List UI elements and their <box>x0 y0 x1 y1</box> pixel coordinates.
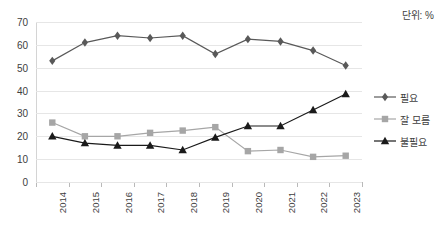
top-cut-off-strip: ─────── ── ── ── ── ── ── ── <box>0 0 444 5</box>
x-tick <box>36 183 37 187</box>
data-point-불필요-2022 <box>309 106 317 113</box>
data-point-잘 모름-2018 <box>180 127 186 133</box>
x-tick-label-2015: 2015 <box>90 192 101 213</box>
chart-legend: 필요잘 모름불필요 <box>374 86 444 152</box>
x-tick <box>69 183 70 187</box>
data-point-잘 모름-2017 <box>147 130 153 136</box>
diamond-marker-icon <box>374 91 396 103</box>
series-line-필요 <box>52 36 345 66</box>
data-point-잘 모름-2015 <box>82 133 88 139</box>
x-tick <box>297 183 298 187</box>
unit-note: 단위: % <box>402 7 434 22</box>
data-point-필요-2016 <box>114 32 120 40</box>
legend-label: 잘 모름 <box>400 112 430 127</box>
y-tick-label-10: 10 <box>2 154 28 165</box>
legend-label: 불필요 <box>400 134 427 149</box>
x-tick-label-2023: 2023 <box>351 192 362 213</box>
data-point-필요-2021 <box>277 37 283 45</box>
data-point-잘 모름-2023 <box>343 153 349 159</box>
data-point-필요-2014 <box>49 57 55 65</box>
data-point-잘 모름-2014 <box>49 119 55 125</box>
legend-item-필요[interactable]: 필요 <box>374 86 444 108</box>
y-tick-label-50: 50 <box>2 62 28 73</box>
legend-label: 필요 <box>400 90 418 105</box>
x-tick-label-2018: 2018 <box>188 192 199 213</box>
x-tick-label-2020: 2020 <box>253 192 264 213</box>
square-marker-icon <box>374 113 396 125</box>
y-tick-label-20: 20 <box>2 131 28 142</box>
data-point-필요-2015 <box>82 38 88 46</box>
y-tick-label-60: 60 <box>2 39 28 50</box>
y-tick-label-30: 30 <box>2 108 28 119</box>
series-필요 <box>49 32 349 70</box>
x-tick <box>134 183 135 187</box>
series-layer <box>36 22 362 182</box>
data-point-필요-2023 <box>343 61 349 69</box>
plot-area <box>36 22 362 182</box>
data-point-잘 모름-2020 <box>245 148 251 154</box>
data-point-잘 모름-2022 <box>310 154 316 160</box>
data-point-잘 모름-2016 <box>114 133 120 139</box>
legend-item-불필요[interactable]: 불필요 <box>374 130 444 152</box>
data-point-불필요-2023 <box>342 90 350 97</box>
x-tick-label-2014: 2014 <box>57 192 68 213</box>
gridline-0 <box>36 182 362 183</box>
x-tick <box>232 183 233 187</box>
x-tick <box>264 183 265 187</box>
x-tick-label-2021: 2021 <box>286 192 297 213</box>
x-tick-label-2016: 2016 <box>123 192 134 213</box>
data-point-필요-2018 <box>180 32 186 40</box>
x-tick <box>199 183 200 187</box>
x-tick-label-2017: 2017 <box>155 192 166 213</box>
data-point-필요-2017 <box>147 34 153 42</box>
x-tick <box>166 183 167 187</box>
top-cut-off-text: ─────── ── ── ── ── ── ── ── <box>4 0 169 4</box>
x-tick <box>362 183 363 187</box>
x-tick-label-2022: 2022 <box>318 192 329 213</box>
y-tick-label-40: 40 <box>2 85 28 96</box>
series-불필요 <box>48 90 350 153</box>
series-line-불필요 <box>52 94 345 150</box>
data-point-잘 모름-2021 <box>277 147 283 153</box>
triangle-marker-icon <box>374 135 396 147</box>
legend-item-잘 모름[interactable]: 잘 모름 <box>374 108 444 130</box>
data-point-잘 모름-2019 <box>212 124 218 130</box>
series-line-잘 모름 <box>52 123 345 157</box>
data-point-필요-2022 <box>310 46 316 54</box>
y-tick-label-70: 70 <box>2 17 28 28</box>
x-tick <box>101 183 102 187</box>
x-tick-label-2019: 2019 <box>220 192 231 213</box>
chart-figure: ─────── ── ── ── ── ── ── ── 단위: % 01020… <box>0 0 444 234</box>
data-point-필요-2020 <box>245 35 251 43</box>
y-tick-label-0: 0 <box>2 177 28 188</box>
data-point-불필요-2014 <box>48 132 56 139</box>
series-잘 모름 <box>49 119 349 160</box>
data-point-필요-2019 <box>212 50 218 58</box>
x-tick <box>329 183 330 187</box>
